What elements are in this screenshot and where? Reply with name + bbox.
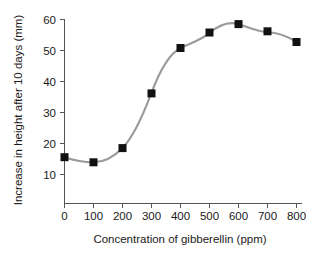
y-tick-label-30: 30 <box>43 107 56 119</box>
y-tick-label-50: 50 <box>43 45 56 57</box>
chart-container: 60 50 40 30 20 10 0 100 200 300 400 500 <box>0 0 329 260</box>
y-tick-label-20: 20 <box>43 138 56 150</box>
y-tick-label-40: 40 <box>43 76 56 88</box>
x-axis-title: Concentration of gibberellin (ppm) <box>93 233 266 245</box>
y-tick-label-60: 60 <box>43 14 56 26</box>
data-point-0 <box>61 153 69 161</box>
data-point-800 <box>293 38 301 46</box>
x-tick-label-400: 400 <box>171 210 190 222</box>
y-tick-label-10: 10 <box>43 169 56 181</box>
x-tick-label-100: 100 <box>84 210 103 222</box>
x-tick-label-700: 700 <box>258 210 277 222</box>
x-axis-tick-labels: 0 100 200 300 400 500 600 700 800 <box>61 210 306 222</box>
data-point-100 <box>90 158 98 166</box>
y-axis-title: Increase in height after 10 days (mm) <box>12 15 24 206</box>
line-chart: 60 50 40 30 20 10 0 100 200 300 400 500 <box>0 0 329 260</box>
chart-background <box>0 0 329 260</box>
x-tick-label-500: 500 <box>200 210 219 222</box>
data-point-500 <box>206 29 214 37</box>
x-tick-label-0: 0 <box>61 210 67 222</box>
data-point-300 <box>148 89 156 97</box>
data-point-700 <box>264 27 272 35</box>
data-point-200 <box>119 144 127 152</box>
x-tick-label-800: 800 <box>287 210 306 222</box>
data-point-400 <box>177 44 185 52</box>
x-tick-label-200: 200 <box>113 210 132 222</box>
data-point-600 <box>235 20 243 28</box>
x-tick-label-300: 300 <box>142 210 161 222</box>
x-tick-label-600: 600 <box>229 210 248 222</box>
